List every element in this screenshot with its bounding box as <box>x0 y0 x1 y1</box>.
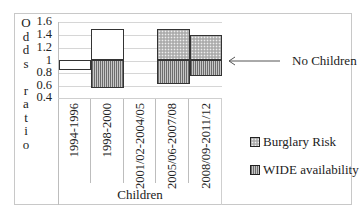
bar <box>91 60 124 88</box>
category-label: 2005/06-2007/08 <box>165 103 180 189</box>
reference-annotation: No Children <box>292 53 357 69</box>
gridline <box>58 86 222 87</box>
plot-area <box>58 22 222 98</box>
category-label: 2001/02-2004/05 <box>132 103 147 189</box>
category-cell: 1994-1996 <box>58 99 91 183</box>
y-axis-ticks: 1.6 1.4 1.2 1 0.8 0.6 0.4 <box>20 0 52 110</box>
arrow-left-icon <box>228 56 280 66</box>
legend-label: WIDE availability <box>263 162 359 177</box>
category-label: 1998-2000 <box>100 103 115 157</box>
category-axis: 1994-1996 1998-2000 2001/02-2004/05 2005… <box>58 98 222 205</box>
bar <box>91 29 124 60</box>
bar <box>190 35 223 60</box>
gridline <box>58 22 222 23</box>
y-axis-title-char: o <box>20 138 32 152</box>
legend-item-burglary-risk: Burglary Risk <box>250 134 359 162</box>
bar <box>59 60 92 70</box>
y-axis-title-char: i <box>20 124 32 138</box>
dotted-swatch-icon <box>250 137 260 147</box>
legend-item-wide-availability: WIDE availability <box>250 162 359 190</box>
bar <box>157 60 190 84</box>
legend: Burglary Risk WIDE availability <box>250 134 359 190</box>
category-label: 1994-1996 <box>67 103 82 157</box>
category-label: 2008/09-2011/12 <box>198 103 213 189</box>
bar <box>157 29 190 60</box>
x-axis-title: Children <box>58 187 222 203</box>
category-cell: 2005/06-2007/08 <box>156 99 189 183</box>
category-cell: 2001/02-2004/05 <box>124 99 156 183</box>
y-axis-title-char: t <box>20 111 32 125</box>
y-tick: 0.4 <box>22 90 52 105</box>
legend-label: Burglary Risk <box>263 134 336 149</box>
bar <box>190 60 223 76</box>
category-cell: 1998-2000 <box>91 99 124 183</box>
hatched-swatch-icon <box>250 165 260 175</box>
category-cell: 2008/09-2011/12 <box>189 99 222 183</box>
